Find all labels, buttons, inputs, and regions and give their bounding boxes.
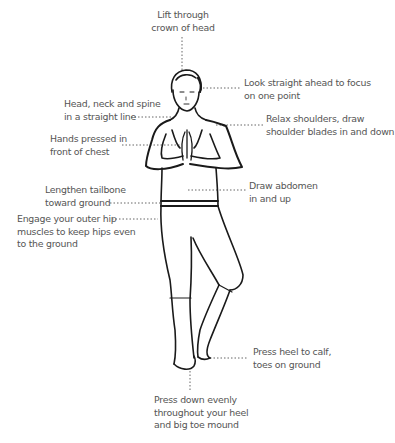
annotation-shoulders-line-2: shoulder blades in and down (266, 126, 394, 139)
annotation-heel: Press heel to calf, toes on ground (253, 346, 331, 371)
annotation-hands-line-1: Hands pressed in (50, 133, 127, 146)
annotation-foot-line-3: and big toe mound (154, 419, 248, 432)
annotation-crown-line-1: Lift through (145, 9, 221, 22)
annotation-hips-line-1: Engage your outer hip (17, 213, 135, 226)
figure-lineart (146, 70, 243, 369)
annotation-crown-line-2: crown of head (145, 22, 221, 35)
annotation-foot-line-2: throughout your heel (154, 407, 248, 420)
annotation-abdomen: Draw abdomen in and up (249, 180, 318, 205)
annotation-hips-line-2: muscles to keep hips even (17, 226, 135, 239)
annotation-gaze-line-2: on one point (244, 90, 371, 103)
annotation-hands-line-2: front of chest (50, 146, 127, 159)
annotation-hips: Engage your outer hip muscles to keep hi… (17, 213, 135, 251)
annotation-foot: Press down evenly throughout your heel a… (154, 394, 248, 432)
annotation-tailbone-line-2: toward ground (45, 197, 126, 210)
annotation-spine-line-2: in a straight line (64, 111, 161, 124)
annotation-crown: Lift through crown of head (145, 9, 221, 34)
annotation-spine: Head, neck and spine in a straight line (64, 98, 161, 123)
annotation-abdomen-line-1: Draw abdomen (249, 180, 318, 193)
annotation-shoulders: Relax shoulders, draw shoulder blades in… (266, 113, 394, 138)
annotation-foot-line-1: Press down evenly (154, 394, 248, 407)
annotation-spine-line-1: Head, neck and spine (64, 98, 161, 111)
annotation-hips-line-3: to the ground (17, 238, 135, 251)
annotation-heel-line-2: toes on ground (253, 359, 331, 372)
annotation-hands: Hands pressed in front of chest (50, 133, 127, 158)
annotation-abdomen-line-2: in and up (249, 193, 318, 206)
annotation-tailbone: Lengthen tailbone toward ground (45, 184, 126, 209)
annotation-gaze-line-1: Look straight ahead to focus (244, 77, 371, 90)
annotation-shoulders-line-1: Relax shoulders, draw (266, 113, 394, 126)
annotation-tailbone-line-1: Lengthen tailbone (45, 184, 126, 197)
annotation-gaze: Look straight ahead to focus on one poin… (244, 77, 371, 102)
annotation-heel-line-1: Press heel to calf, (253, 346, 331, 359)
